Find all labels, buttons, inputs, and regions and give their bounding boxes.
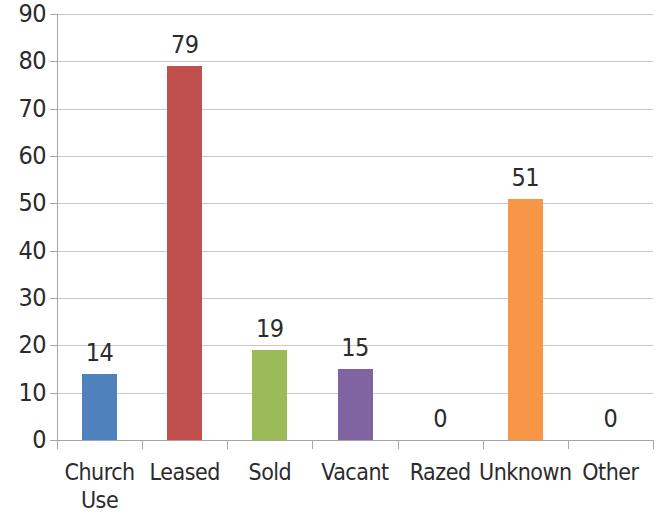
bar-value-label: 14 [60, 340, 140, 365]
y-tick-label-10: 10 [18, 380, 46, 405]
y-tick-mark-80 [50, 61, 57, 62]
y-tick-label-70: 70 [18, 96, 46, 121]
bar[interactable] [82, 374, 117, 440]
bar-value-label: 19 [230, 316, 310, 341]
x-tick-mark-1 [142, 441, 143, 449]
x-tick-mark-end [653, 441, 654, 449]
bar[interactable] [508, 199, 543, 440]
y-tick-label-80: 80 [18, 48, 46, 73]
gridline-60 [57, 156, 653, 157]
y-tick-label-40: 40 [18, 238, 46, 263]
x-tick-mark-2 [227, 441, 228, 449]
x-axis-line [57, 440, 654, 441]
bar-chart: 9080706050403020100 14Church Use79Leased… [0, 0, 665, 518]
x-tick-mark-4 [398, 441, 399, 449]
x-tick-mark-5 [483, 441, 484, 449]
gridline-50 [57, 203, 653, 204]
y-tick-mark-90 [50, 14, 57, 15]
y-tick-mark-50 [50, 203, 57, 204]
y-tick-mark-60 [50, 156, 57, 157]
bar-value-label: 79 [145, 32, 225, 57]
y-axis-line [57, 14, 58, 441]
gridline-90 [57, 14, 653, 15]
gridline-70 [57, 109, 653, 110]
plot-area [57, 14, 653, 440]
y-tick-label-50: 50 [18, 190, 46, 215]
y-tick-mark-30 [50, 298, 57, 299]
bar[interactable] [338, 369, 373, 440]
bar[interactable] [167, 66, 202, 440]
x-tick-mark-6 [568, 441, 569, 449]
bar-value-label: 15 [315, 335, 395, 360]
y-tick-label-20: 20 [18, 332, 46, 357]
gridline-40 [57, 251, 653, 252]
gridline-80 [57, 61, 653, 62]
y-tick-mark-10 [50, 393, 57, 394]
y-tick-mark-0 [50, 440, 57, 441]
bar-value-label: 51 [485, 165, 565, 190]
bar-value-label: 0 [570, 406, 650, 431]
y-axis-tick-labels: 9080706050403020100 [0, 0, 46, 518]
x-tick-mark-0 [57, 441, 58, 449]
x-tick-mark-3 [312, 441, 313, 449]
y-tick-mark-20 [50, 345, 57, 346]
y-tick-mark-70 [50, 109, 57, 110]
bar-value-label: 0 [400, 406, 480, 431]
y-tick-label-0: 0 [32, 427, 46, 452]
y-tick-label-30: 30 [18, 285, 46, 310]
y-tick-label-90: 90 [18, 1, 46, 26]
y-tick-label-60: 60 [18, 143, 46, 168]
y-tick-mark-40 [50, 251, 57, 252]
gridline-30 [57, 298, 653, 299]
x-category-label: Other [550, 458, 665, 486]
bar[interactable] [252, 350, 287, 440]
